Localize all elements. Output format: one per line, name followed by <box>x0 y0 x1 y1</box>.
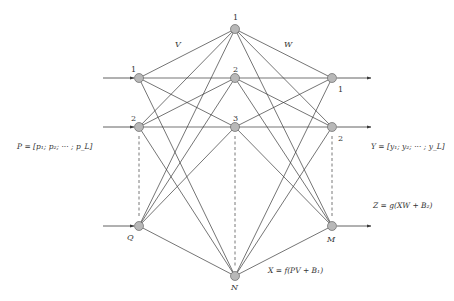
output-node-1 <box>328 74 337 83</box>
hidden-output-edges <box>235 29 332 276</box>
output-label-2: 2 <box>338 134 343 143</box>
output-vector-formula: Y = [y₁; y₂; ··· ; y_L] <box>371 142 445 151</box>
input-node-1 <box>135 74 144 83</box>
output-node-2 <box>328 123 337 132</box>
input-node-2 <box>135 123 144 132</box>
input-arrows <box>103 78 134 226</box>
weight-w-label: W <box>284 40 293 49</box>
output-layer <box>328 74 337 231</box>
hidden-label-2: 2 <box>233 65 238 74</box>
input-label-2: 2 <box>131 114 136 123</box>
output-label-1: 1 <box>338 85 343 94</box>
output-label-m: M <box>326 235 336 244</box>
hidden-function-formula: X = f(PV + B₁) <box>267 266 323 275</box>
hidden-node-n <box>231 272 240 281</box>
output-arrows <box>337 78 371 226</box>
hidden-node-1 <box>231 25 240 34</box>
hidden-label-n: N <box>230 283 239 292</box>
weight-v-label: V <box>175 40 182 49</box>
neural-network-diagram: 1 2 Q 1 2 3 N 1 2 M V W P = [p₁; p₂; ···… <box>0 0 454 301</box>
hidden-label-1: 1 <box>233 13 238 22</box>
ellipsis-dashes <box>139 136 332 266</box>
input-layer <box>135 74 144 231</box>
input-vector-formula: P = [p₁; p₂; ··· ; p_L] <box>16 142 92 151</box>
output-node-m <box>328 222 337 231</box>
input-label-q: Q <box>127 233 134 242</box>
input-hidden-edges <box>139 29 235 276</box>
hidden-label-3: 3 <box>233 114 238 123</box>
input-node-q <box>135 222 144 231</box>
hidden-node-3 <box>231 123 240 132</box>
hidden-node-2 <box>231 74 240 83</box>
output-function-formula: Z = g(XW + B₂) <box>372 201 433 210</box>
input-label-1: 1 <box>131 65 136 74</box>
